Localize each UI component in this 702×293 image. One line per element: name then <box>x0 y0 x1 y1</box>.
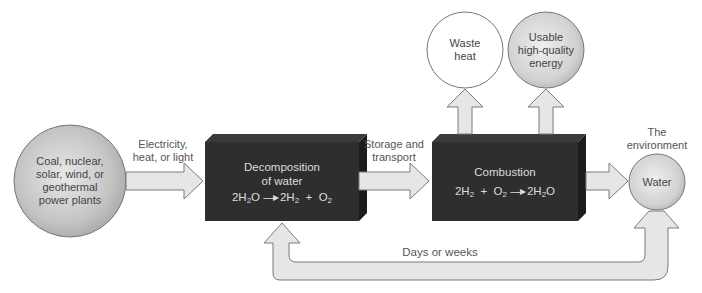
water-label-text: Water <box>643 176 672 189</box>
decomposition-title-line-2: of water <box>205 174 359 188</box>
usable-energy-line-2: high-quality <box>518 44 574 57</box>
combustion-title: Combustion <box>432 165 578 179</box>
eq-term: O <box>546 185 555 197</box>
power-plants-line-3: geothermal <box>36 181 104 194</box>
electricity-label: Electricity, heat, or light <box>128 138 198 164</box>
eq-term: 2H <box>527 185 542 197</box>
waste-heat-label: Waste heat <box>427 12 503 88</box>
combustion-box <box>432 142 578 221</box>
usable-energy-line-3: energy <box>518 57 574 70</box>
electricity-label-line-1: Electricity, <box>128 138 198 151</box>
waste-heat-line-1: Waste <box>450 37 481 50</box>
eq-term: 2H <box>280 191 295 203</box>
environment-label-line-2: environment <box>617 139 697 152</box>
combustion-equation: 2H2 + O2 —▸ 2H2O <box>432 184 578 199</box>
reaction-arrow-icon: —▸ <box>510 185 524 197</box>
power-plants-line-2: solar, wind, or <box>36 168 104 181</box>
usable-energy-line-1: Usable <box>518 31 574 44</box>
power-plants-line-1: Coal, nuclear, <box>36 155 104 168</box>
waste-heat-line-2: heat <box>450 50 481 63</box>
eq-sub: 2 <box>328 196 332 205</box>
storage-label-line-1: Storage and <box>361 138 427 151</box>
arrow-to-water <box>586 163 628 199</box>
storage-transport-label: Storage and transport <box>361 138 427 164</box>
eq-term: O <box>251 191 260 203</box>
diagram-canvas <box>0 0 702 293</box>
arrow-storage-transport <box>359 163 429 199</box>
decomposition-box-top <box>205 134 367 142</box>
electricity-label-line-2: heat, or light <box>128 151 198 164</box>
days-or-weeks-label: Days or weeks <box>380 246 500 259</box>
reaction-arrow-icon: —▸ <box>263 191 277 203</box>
decomposition-equation: 2H2O —▸ 2H2 + O2 <box>205 190 359 205</box>
combustion-title-text: Combustion <box>432 165 578 179</box>
eq-plus: + <box>481 185 488 197</box>
arrow-waste-heat <box>447 89 483 134</box>
environment-label-line-1: The <box>617 126 697 139</box>
eq-sub: 2 <box>295 196 299 205</box>
arrow-electricity <box>126 163 203 199</box>
usable-energy-label: Usable high-quality energy <box>508 12 584 88</box>
eq-term: 2H <box>455 185 470 197</box>
power-plants-label: Coal, nuclear, solar, wind, or geotherma… <box>20 150 120 212</box>
environment-label: The environment <box>617 126 697 152</box>
eq-plus: + <box>306 191 313 203</box>
decomposition-title: Decomposition of water <box>205 160 359 188</box>
eq-sub: 2 <box>503 190 507 199</box>
storage-label-line-2: transport <box>361 151 427 164</box>
days-or-weeks-text: Days or weeks <box>402 246 477 258</box>
eq-term: O <box>319 191 328 203</box>
eq-term: O <box>494 185 503 197</box>
combustion-box-top <box>432 134 586 142</box>
combustion-box-side <box>578 134 586 221</box>
eq-sub: 2 <box>470 190 474 199</box>
power-plants-line-4: power plants <box>36 194 104 207</box>
decomposition-title-line-1: Decomposition <box>205 160 359 174</box>
arrow-usable-energy <box>528 89 564 134</box>
water-label: Water <box>629 170 685 194</box>
eq-term: 2H <box>232 191 247 203</box>
